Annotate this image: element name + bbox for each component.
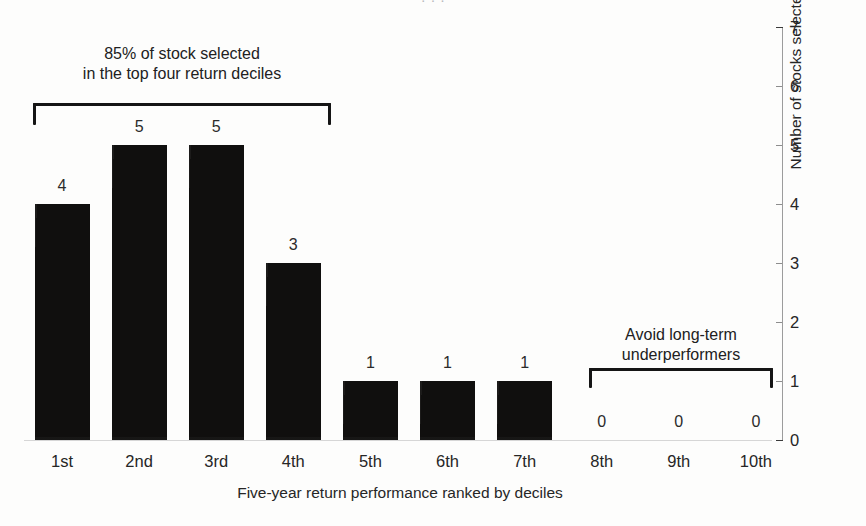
bar-4th <box>266 263 321 440</box>
x-tick-9th: 9th <box>644 452 714 471</box>
y-axis-title: Number of stocks selected by return deci… <box>787 0 805 233</box>
bracket-right-arm <box>770 368 773 388</box>
bracket-top-rule <box>589 368 773 371</box>
x-tick-4th: 4th <box>258 452 328 471</box>
bar-value-label-7th: 1 <box>495 355 555 371</box>
x-tick-6th: 6th <box>413 452 483 471</box>
x-tick-7th: 7th <box>490 452 560 471</box>
annotation-top-deciles-text: 85% of stock selected in the top four re… <box>33 44 331 84</box>
cropped-title-remnant: · · · <box>0 0 866 2</box>
bar-6th <box>420 381 475 440</box>
y-tick-mark-2 <box>776 322 782 323</box>
x-axis-baseline <box>24 440 772 441</box>
x-tick-8th: 8th <box>567 452 637 471</box>
y-tick-mark-3 <box>776 263 782 264</box>
bracket-left-arm <box>589 368 592 388</box>
y-tick-mark-1 <box>776 381 782 382</box>
bar-3rd <box>189 145 244 440</box>
annotation-underperformers-line2: underperformers <box>583 345 779 365</box>
chart-figure: · · · 4553111000 1st2nd3rd4th5th6th7th8t… <box>0 0 866 526</box>
bar-value-label-1st: 4 <box>32 178 92 194</box>
annotation-underperformers-line1: Avoid long-term <box>583 325 779 345</box>
bar-value-label-5th: 1 <box>340 355 400 371</box>
bar-value-label-8th: 0 <box>572 414 632 430</box>
x-tick-3rd: 3rd <box>181 452 251 471</box>
bar-value-label-9th: 0 <box>649 414 709 430</box>
y-tick-mark-4 <box>776 204 782 205</box>
bar-1st <box>35 204 90 440</box>
y-tick-label-1: 1 <box>790 373 799 390</box>
bar-7th <box>497 381 552 440</box>
x-axis-title: Five-year return performance ranked by d… <box>0 484 800 502</box>
x-tick-5th: 5th <box>335 452 405 471</box>
y-tick-label-0: 0 <box>790 432 799 449</box>
bracket-left-arm <box>33 103 36 125</box>
bar-2nd <box>112 145 167 440</box>
y-tick-mark-6 <box>776 86 782 87</box>
bar-value-label-6th: 1 <box>418 355 478 371</box>
y-tick-label-3: 3 <box>790 255 799 272</box>
x-tick-10th: 10th <box>721 452 791 471</box>
y-axis-line <box>782 27 783 440</box>
x-tick-2nd: 2nd <box>104 452 174 471</box>
bar-5th <box>343 381 398 440</box>
bar-value-label-4th: 3 <box>263 237 323 253</box>
bar-value-label-10th: 0 <box>726 414 786 430</box>
y-axis-bottom-cap <box>776 440 783 441</box>
annotation-underperformers-bracket <box>589 368 773 388</box>
annotation-top-deciles-line2: in the top four return deciles <box>33 64 331 84</box>
bracket-right-arm <box>328 103 331 125</box>
y-tick-label-2: 2 <box>790 314 799 331</box>
y-tick-mark-5 <box>776 145 782 146</box>
annotation-top-deciles-bracket <box>33 103 331 125</box>
x-tick-1st: 1st <box>27 452 97 471</box>
annotation-top-deciles-line1: 85% of stock selected <box>33 44 331 64</box>
bracket-top-rule <box>33 103 331 106</box>
y-axis-top-cap <box>776 27 783 28</box>
annotation-underperformers-text: Avoid long-term underperformers <box>583 325 779 365</box>
